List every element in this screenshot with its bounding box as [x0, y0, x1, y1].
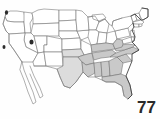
state-oklahoma [62, 49, 84, 57]
state-maryland [122, 37, 132, 44]
state-louisiana [82, 62, 95, 77]
state-montana [32, 9, 59, 24]
marker-utah-icon [29, 39, 33, 44]
marker-washington-icon [5, 10, 8, 14]
page-number: 77 [137, 99, 156, 116]
state-indiana [97, 32, 107, 44]
state-south-dakota [59, 20, 77, 31]
state-alabama [101, 61, 110, 77]
state-new-mexico [44, 52, 63, 66]
us-map-svg [0, 0, 160, 119]
state-kansas [62, 38, 81, 50]
figure-page: 77 [0, 0, 160, 119]
state-rhode-island [139, 24, 142, 27]
gulf-of-california-outline [30, 66, 43, 98]
state-north-dakota [59, 10, 76, 21]
state-minnesota [76, 10, 89, 31]
state-mississippi [94, 62, 102, 77]
us-map-figure [0, 0, 160, 119]
state-wyoming [31, 23, 59, 36]
state-new-york [112, 16, 133, 31]
state-florida [102, 74, 132, 99]
state-nebraska [59, 31, 80, 39]
marker-california-coast-icon [3, 45, 6, 49]
